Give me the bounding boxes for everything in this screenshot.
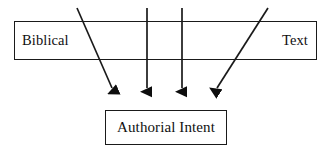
diagram-canvas: Biblical Text Authorial Intent	[0, 0, 326, 153]
source-node-biblical-text: Biblical Text	[14, 21, 317, 60]
source-node-right-label: Text	[282, 33, 310, 48]
target-node-authorial-intent: Authorial Intent	[105, 110, 227, 145]
source-node-left-label: Biblical	[21, 33, 69, 48]
target-node-label: Authorial Intent	[117, 120, 215, 135]
